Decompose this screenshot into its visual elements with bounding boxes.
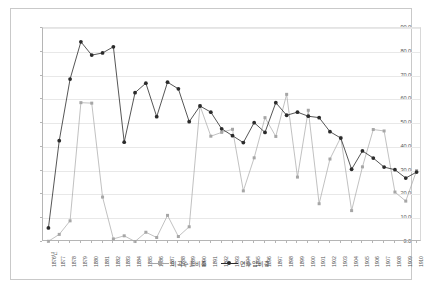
data-point	[274, 135, 277, 138]
x-axis-tick-label: 1910	[418, 256, 424, 267]
data-point	[285, 113, 289, 117]
x-axis-tick-mark	[340, 241, 341, 243]
data-point	[90, 53, 94, 57]
data-point	[231, 134, 235, 138]
series-1	[47, 93, 418, 243]
data-point	[263, 116, 266, 119]
data-point	[350, 167, 354, 171]
x-axis-tick-mark	[167, 241, 168, 243]
data-point	[155, 115, 159, 119]
data-point	[101, 196, 104, 199]
x-axis-tick-mark	[307, 241, 308, 243]
x-axis-tick-mark	[329, 241, 330, 243]
legend-item-1[interactable]: 미곡수출비중	[152, 259, 207, 268]
data-point	[404, 200, 407, 203]
data-point	[382, 165, 386, 169]
x-axis-tick-mark	[177, 241, 178, 243]
data-point	[252, 121, 256, 125]
data-point	[112, 237, 115, 240]
legend-marker-icon	[221, 260, 238, 267]
data-point	[68, 77, 72, 81]
data-point	[296, 176, 299, 179]
x-axis-tick-mark	[394, 241, 395, 243]
x-axis-tick-mark	[58, 241, 59, 243]
x-axis-tick-mark	[242, 241, 243, 243]
data-point	[241, 141, 245, 145]
data-point	[371, 156, 375, 160]
data-point	[296, 110, 300, 114]
data-point	[350, 209, 353, 212]
data-point	[404, 176, 408, 180]
data-point	[328, 130, 332, 134]
x-axis-tick-mark	[134, 241, 135, 243]
x-axis-tick-mark	[145, 241, 146, 243]
x-axis-tick-mark	[383, 241, 384, 243]
data-point	[79, 101, 82, 104]
x-axis-tick-mark	[80, 241, 81, 243]
x-axis-tick-mark	[361, 241, 362, 243]
data-point	[231, 128, 234, 131]
x-axis-tick-mark	[188, 241, 189, 243]
legend-marker-icon	[152, 260, 169, 267]
data-point	[111, 45, 115, 49]
x-axis-tick-mark	[123, 241, 124, 243]
data-point	[187, 120, 191, 124]
x-axis-tick-mark	[296, 241, 297, 243]
x-axis-tick-mark	[351, 241, 352, 243]
data-point	[220, 131, 223, 134]
data-point	[209, 110, 213, 114]
data-point	[90, 102, 93, 105]
data-point	[285, 93, 288, 96]
data-point	[209, 135, 212, 138]
x-axis-tick-mark	[112, 241, 113, 243]
data-point	[318, 202, 321, 205]
data-point	[383, 129, 386, 132]
data-point	[155, 236, 158, 239]
x-axis-tick-mark	[47, 241, 48, 243]
data-point	[122, 140, 126, 144]
x-axis-tick-mark	[210, 241, 211, 243]
data-point	[177, 235, 180, 238]
data-point	[242, 189, 245, 192]
data-point	[306, 114, 310, 118]
x-axis-tick-mark	[221, 241, 222, 243]
data-point	[101, 51, 105, 55]
data-point	[144, 81, 148, 85]
data-point	[307, 109, 310, 112]
x-axis-tick-mark	[91, 241, 92, 243]
x-axis-tick-mark	[253, 241, 254, 243]
x-axis-tick-mark	[405, 241, 406, 243]
data-point	[176, 87, 180, 91]
x-axis-tick-mark	[232, 241, 233, 243]
series-lines	[43, 28, 422, 242]
y-axis-tick-mark	[40, 241, 42, 242]
x-axis-tick-mark	[102, 241, 103, 243]
data-point	[166, 80, 170, 84]
data-point	[144, 231, 147, 234]
x-axis-tick-mark	[69, 241, 70, 243]
data-point	[57, 139, 61, 143]
data-point	[58, 233, 61, 236]
data-point	[361, 149, 365, 153]
x-axis-tick-mark	[199, 241, 200, 243]
data-point	[372, 128, 375, 131]
data-point	[339, 136, 343, 140]
data-point	[69, 219, 72, 222]
x-axis-tick-mark	[372, 241, 373, 243]
data-point	[393, 168, 397, 172]
data-point	[328, 158, 331, 161]
data-point	[47, 226, 51, 230]
x-axis-tick-mark	[156, 241, 157, 243]
chart-frame: 0.010.020.030.040.050.060.070.080.090.0 …	[10, 8, 412, 280]
legend-item-2[interactable]: 면수입비중	[221, 259, 270, 268]
data-point	[220, 127, 224, 131]
legend-label: 면수입비중	[240, 261, 270, 267]
x-axis-tick-mark	[286, 241, 287, 243]
data-point	[253, 156, 256, 159]
plot-area	[42, 27, 421, 241]
data-point	[198, 104, 202, 108]
chart-legend: 미곡수출비중면수입비중	[11, 259, 411, 268]
series-2	[47, 40, 419, 230]
data-point	[317, 116, 321, 120]
